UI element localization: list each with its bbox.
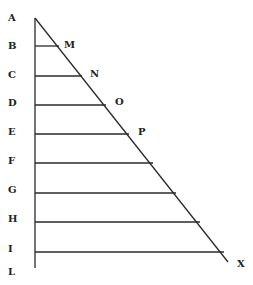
label-f: F xyxy=(8,155,15,166)
label-e: E xyxy=(8,126,16,137)
label-b: B xyxy=(8,40,16,51)
right-labels: MNOPX xyxy=(64,39,245,269)
label-i: I xyxy=(8,243,13,254)
label-n: N xyxy=(90,68,99,79)
triangle-diagram: ABCDEFGHIL MNOPX xyxy=(0,0,253,285)
label-m: M xyxy=(64,39,75,50)
hypotenuse-line xyxy=(35,18,228,262)
label-o: O xyxy=(115,96,124,107)
label-p: P xyxy=(138,126,146,137)
label-d: D xyxy=(8,97,17,108)
label-h: H xyxy=(8,213,17,224)
label-x: X xyxy=(237,258,245,269)
left-labels: ABCDEFGHIL xyxy=(7,12,17,277)
label-a: A xyxy=(7,12,16,23)
faint-caption xyxy=(0,276,253,285)
label-c: C xyxy=(8,69,16,80)
label-g: G xyxy=(8,184,17,195)
